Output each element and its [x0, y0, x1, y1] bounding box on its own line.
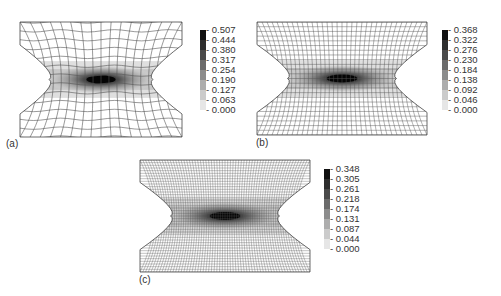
panel-a: - 0.507- 0.444- 0.380- 0.317- 0.254- 0.1…	[0, 0, 250, 150]
panel-label-c: (c)	[139, 274, 151, 285]
contour-field	[20, 21, 182, 138]
panel-label-a: (a)	[6, 138, 18, 149]
panel-label-b: (b)	[256, 137, 268, 148]
panel-b: - 0.368- 0.322- 0.276- 0.230- 0.184- 0.1…	[250, 0, 501, 150]
colorbar-tick-label: - 0.000	[448, 105, 478, 115]
panel-c: - 0.348- 0.305- 0.261- 0.218- 0.174- 0.1…	[125, 150, 385, 296]
colorbar-tick-label: - 0.000	[206, 105, 236, 115]
contour-field	[257, 22, 427, 135]
contour-field	[140, 160, 310, 272]
colorbar-tick-label: - 0.000	[330, 244, 360, 254]
